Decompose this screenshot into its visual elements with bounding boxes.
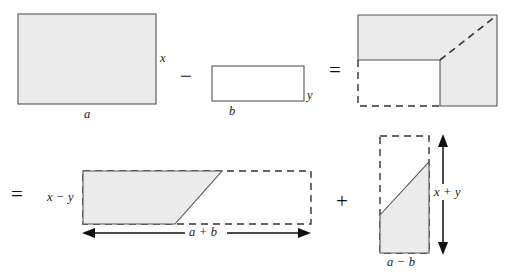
label-b: b [229,105,235,118]
plus-operator-bottom: + [336,191,348,212]
equals-operator-bottom: = [11,184,23,205]
figure-root: − = = + x a y b x − y a + b x + y a − b [0,0,514,278]
minus-operator-top: − [180,66,192,87]
label-y: y [307,89,313,102]
gnomon-dashed-notch [358,60,440,106]
rect-a-shape [18,14,156,104]
label-a: a [84,108,90,121]
label-a-plus-b: a + b [189,226,217,239]
label-a-minus-b: a − b [387,256,415,269]
trapezoid-shape [83,171,222,224]
label-x-minus-y: x − y [47,191,74,204]
rect-b-shape [212,66,304,101]
figure-canvas [0,0,514,278]
right-trapezoid-shape [380,162,429,253]
equals-operator-top: = [329,60,341,81]
label-x: x [160,52,166,65]
gnomon-shape [358,15,497,106]
label-x-plus-y: x + y [434,186,461,199]
